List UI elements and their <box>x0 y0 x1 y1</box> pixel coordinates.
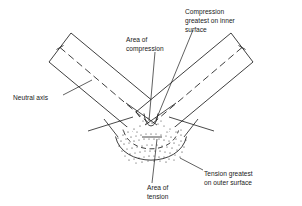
tick-cross-left <box>104 119 118 137</box>
label-area-of-compression-line1: Area of <box>126 36 148 43</box>
tick-cross-right <box>184 119 198 137</box>
neutral-axis-left <box>60 48 150 125</box>
label-area-of-tension-line2: tension <box>147 193 169 200</box>
label-tension-greatest-line1: Tension greatest <box>204 170 253 178</box>
label-compression-greatest-line3: surface <box>185 26 207 33</box>
leader-tension-greatest <box>180 158 203 170</box>
label-tension-greatest-line2: on outer surface <box>204 179 252 186</box>
label-neutral-axis: Neutral axis <box>13 94 49 101</box>
diagram-canvas: Neutral axis Area of compression Compres… <box>0 0 302 206</box>
label-compression-greatest-line2: greatest on inner <box>185 17 236 25</box>
bending-stress-diagram: Neutral axis Area of compression Compres… <box>0 0 302 206</box>
label-area-of-tension-line1: Area of <box>147 184 169 191</box>
label-compression-greatest-line1: Compression <box>185 8 224 16</box>
neutral-axis-right <box>152 48 242 125</box>
label-area-of-compression-line2: compression <box>126 45 164 53</box>
